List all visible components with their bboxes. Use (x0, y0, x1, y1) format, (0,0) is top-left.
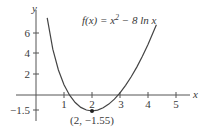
svg-text:5: 5 (173, 98, 179, 110)
svg-text:1: 1 (61, 98, 67, 110)
function-label: f(x) = x2 − 8 ln x (82, 13, 157, 27)
chart: x y 1 2 3 4 5 6 4 2 −1.5 (2, −1.55) f(x)… (0, 0, 208, 134)
svg-text:4: 4 (145, 98, 151, 110)
svg-text:2: 2 (89, 98, 95, 110)
x-axis-label: x (192, 88, 198, 100)
svg-text:−1.5: −1.5 (10, 104, 30, 116)
y-axis-label: y (31, 2, 37, 14)
y-tick-labels: 6 4 2 −1.5 (10, 27, 30, 116)
svg-text:3: 3 (118, 98, 124, 110)
svg-text:6: 6 (25, 27, 31, 39)
minimum-point-label: (2, −1.55) (70, 114, 114, 127)
svg-text:4: 4 (25, 47, 31, 59)
x-tick-labels: 1 2 3 4 5 (61, 98, 179, 110)
minimum-point (90, 109, 94, 113)
svg-text:2: 2 (25, 68, 31, 80)
